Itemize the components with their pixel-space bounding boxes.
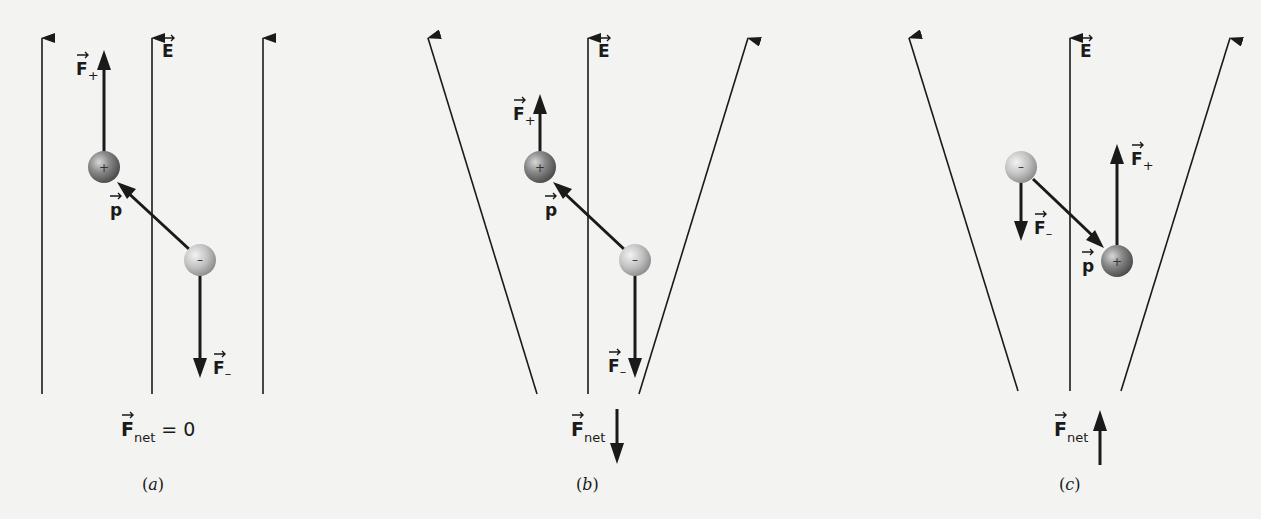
panel-caption-b: (b) [576,475,599,494]
vector-arrow-icon [1035,211,1046,217]
panel-caption-c: (c) [1059,475,1080,494]
force-minus-label: F– [608,356,626,379]
vector-arrow-icon [77,52,88,58]
arrowhead-icon [610,443,624,464]
dipole-moment-arrow [125,190,190,250]
field-line [1121,38,1230,391]
dipole-moment-arrow [561,190,625,250]
force-plus-label: F+ [513,104,536,128]
arrowhead-icon [1110,144,1124,164]
field-line [909,38,1018,391]
arrowhead-icon [193,358,207,378]
panel-a: E F+ p F– + – Fnet= 0 (a) [42,35,263,494]
panel-caption-a: (a) [142,475,164,494]
vector-arrow-icon [545,193,556,199]
vector-arrow-icon [110,193,121,199]
panel-b: E F+ p F– + – Fnet (b) [428,35,748,494]
force-minus-label: F– [1034,218,1052,241]
arrowhead-icon [97,50,111,70]
positive-charge-sign: + [535,161,545,175]
arrowhead-icon [1014,221,1028,241]
vector-arrow-icon [609,349,620,355]
vector-arrow-icon [1082,249,1093,255]
net-force-label: Fnet [571,418,605,445]
field-line [428,38,537,394]
dipole-figure: E F+ p F– + – Fnet= 0 (a) E [0,0,1261,519]
net-force-label: Fnet [1054,418,1088,445]
force-plus-label: F+ [1131,149,1154,173]
field-label-e: E [1080,41,1092,61]
panel-c: E F– F+ p – + Fnet (c) [909,35,1230,494]
arrowhead-icon [628,358,642,378]
force-minus-label: F– [213,358,231,381]
positive-charge-sign: + [1112,255,1122,269]
dipole-label-p: p [110,200,122,220]
net-force-label: Fnet= 0 [121,418,195,445]
negative-charge-sign: – [1018,160,1024,174]
force-plus-label: F+ [76,59,99,83]
arrowhead-icon [533,94,547,114]
arrowhead-icon [1093,410,1107,431]
dipole-label-p: p [545,200,557,220]
field-label-e: E [162,41,174,61]
negative-charge-sign: – [632,253,638,267]
dipole-label-p: p [1082,256,1094,276]
vector-arrow-icon [1132,142,1143,148]
vector-arrow-icon [514,97,525,103]
field-line [639,38,748,394]
field-label-e: E [598,41,610,61]
vector-arrow-icon [214,351,225,357]
positive-charge-sign: + [99,161,109,175]
negative-charge-sign: – [197,253,203,267]
